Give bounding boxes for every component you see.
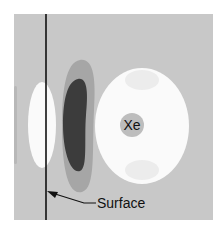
xe-shell-notch-top <box>125 70 159 90</box>
surface-label: Surface <box>97 195 145 211</box>
xe-shell-notch-bottom <box>125 160 159 180</box>
left-white-lobe <box>28 82 56 168</box>
charge-density-contour-figure: Xe Surface <box>0 0 224 229</box>
atom-label: Xe <box>123 117 140 133</box>
far-left-faint-band <box>14 86 17 164</box>
